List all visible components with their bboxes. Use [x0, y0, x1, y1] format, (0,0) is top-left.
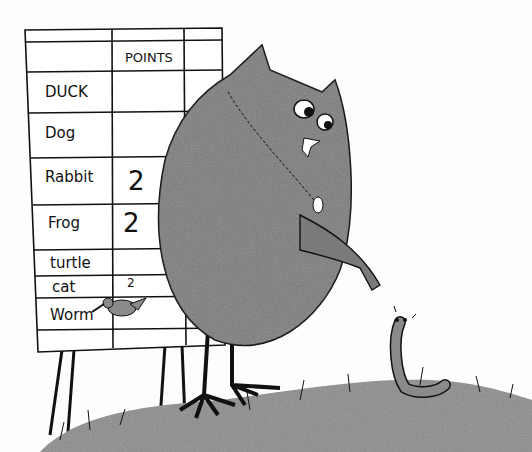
row-label: Frog	[48, 214, 80, 232]
row-label: DUCK	[45, 83, 89, 101]
row-label: Rabbit	[45, 168, 93, 186]
row-label: Dog	[45, 124, 75, 142]
points-header: POINTS	[125, 50, 173, 65]
row-label: cat	[52, 278, 75, 296]
row-points: 2	[123, 208, 140, 238]
scene: POINTS DUCK Dog Rabbit Frog turtle cat W…	[0, 0, 532, 452]
row-points: 2	[128, 166, 145, 196]
row-label: turtle	[50, 254, 91, 272]
worm	[394, 306, 445, 392]
row-label: Worm	[50, 306, 94, 324]
row-points: 2	[127, 276, 135, 290]
illustration: POINTS DUCK Dog Rabbit Frog turtle cat W…	[0, 0, 532, 452]
